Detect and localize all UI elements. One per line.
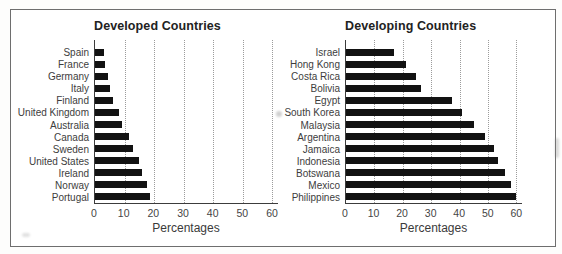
- bar-row: [346, 118, 522, 130]
- x-tick-label: 60: [510, 207, 522, 219]
- bar: [95, 61, 105, 68]
- bar: [346, 169, 505, 176]
- x-tick-label: 10: [368, 207, 380, 219]
- category-label: Argentina: [277, 131, 345, 143]
- category-label: Hong Kong: [277, 58, 345, 70]
- bars-area: [95, 46, 278, 203]
- bar: [95, 181, 147, 188]
- category-labels: SpainFranceGermanyItalyFinlandUnited Kin…: [14, 40, 94, 204]
- bar: [346, 85, 421, 92]
- x-ticks: 0102030405060: [345, 207, 522, 219]
- bar: [95, 157, 139, 164]
- bar-row: [346, 167, 522, 179]
- bar: [95, 85, 110, 92]
- bar: [95, 133, 129, 140]
- bar: [346, 109, 462, 116]
- x-tick-label: 10: [118, 207, 130, 219]
- plot-area: [94, 40, 278, 204]
- category-label: Malaysia: [277, 119, 345, 131]
- bar: [346, 121, 474, 128]
- bar: [346, 157, 498, 164]
- bar-row: [95, 118, 278, 130]
- bar-row: [95, 167, 278, 179]
- category-label: Finland: [14, 95, 94, 107]
- chart-title: Developed Countries: [94, 19, 221, 33]
- category-label: Italy: [14, 82, 94, 94]
- x-axis-label: Percentages: [94, 221, 278, 235]
- x-tick-label: 30: [177, 207, 189, 219]
- bar-row: [346, 46, 522, 58]
- bar-row: [346, 191, 522, 203]
- category-labels: IsraelHong KongCosta RicaBoliviaEgyptSou…: [277, 40, 345, 204]
- chart-developed-countries: Developed Countries SpainFranceGermanyIt…: [14, 16, 278, 240]
- bars-area: [346, 46, 522, 203]
- bar: [346, 181, 511, 188]
- category-label: Sweden: [14, 143, 94, 155]
- bar-row: [95, 155, 278, 167]
- bar-row: [95, 46, 278, 58]
- scan-artifact: [276, 111, 282, 117]
- category-label: United States: [14, 155, 94, 167]
- bar: [346, 133, 485, 140]
- category-label: Germany: [14, 70, 94, 82]
- bar-row: [95, 191, 278, 203]
- scan-artifact: [22, 233, 30, 237]
- bar-row: [346, 94, 522, 106]
- bar: [346, 97, 452, 104]
- category-label: Portugal: [14, 192, 94, 204]
- bar: [95, 193, 150, 200]
- bar-row: [95, 131, 278, 143]
- x-tick-label: 0: [91, 207, 97, 219]
- category-label: Jamaica: [277, 143, 345, 155]
- bar: [95, 121, 122, 128]
- bar-row: [95, 82, 278, 94]
- bar-row: [346, 106, 522, 118]
- bar: [95, 97, 113, 104]
- bar: [95, 169, 142, 176]
- bar: [346, 193, 516, 200]
- category-label: United Kingdom: [14, 107, 94, 119]
- figure-canvas: Developed Countries SpainFranceGermanyIt…: [0, 0, 562, 254]
- category-label: Mexico: [277, 180, 345, 192]
- category-label: South Korea: [277, 107, 345, 119]
- category-label: Egypt: [277, 95, 345, 107]
- plot-area: [345, 40, 522, 204]
- category-label: Indonesia: [277, 155, 345, 167]
- category-label: Philippines: [277, 192, 345, 204]
- bar-row: [95, 143, 278, 155]
- x-tick-label: 50: [482, 207, 494, 219]
- category-label: Israel: [277, 46, 345, 58]
- bar-row: [346, 70, 522, 82]
- bar-row: [346, 82, 522, 94]
- x-tick-label: 40: [453, 207, 465, 219]
- bar-row: [346, 179, 522, 191]
- scan-artifact: [555, 138, 559, 158]
- bar: [346, 49, 394, 56]
- category-label: Bolivia: [277, 82, 345, 94]
- category-label: Canada: [14, 131, 94, 143]
- x-tick-label: 20: [148, 207, 160, 219]
- x-tick-label: 20: [396, 207, 408, 219]
- bar: [95, 145, 133, 152]
- chart-developing-countries: Developing Countries IsraelHong KongCost…: [277, 16, 522, 240]
- bar-row: [346, 155, 522, 167]
- category-label: Norway: [14, 180, 94, 192]
- bar: [346, 61, 406, 68]
- bar-row: [95, 179, 278, 191]
- category-label: France: [14, 58, 94, 70]
- bar-row: [95, 58, 278, 70]
- bar-row: [346, 131, 522, 143]
- chart-title: Developing Countries: [345, 19, 476, 33]
- bar: [346, 145, 494, 152]
- x-tick-label: 0: [342, 207, 348, 219]
- bar: [95, 109, 119, 116]
- bar-row: [346, 58, 522, 70]
- x-ticks: 0102030405060: [94, 207, 278, 219]
- bar: [95, 49, 104, 56]
- x-tick-label: 50: [237, 207, 249, 219]
- bar-row: [346, 143, 522, 155]
- bar-row: [95, 106, 278, 118]
- x-axis-label: Percentages: [345, 221, 522, 235]
- category-label: Ireland: [14, 168, 94, 180]
- bar-row: [95, 94, 278, 106]
